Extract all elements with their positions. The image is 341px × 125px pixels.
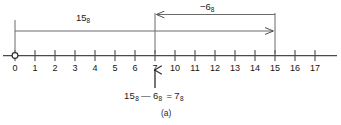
subtraction-span-base: 8 (211, 6, 215, 13)
tick-label-14: 14 (246, 64, 264, 73)
origin-circle-marker (12, 53, 18, 59)
tick-label-13: 13 (226, 64, 244, 73)
tick-label-11: 11 (186, 64, 204, 73)
tick-label-15: 15 (266, 64, 284, 73)
tick-label-6: 6 (126, 64, 144, 73)
equation-minuend-base: 8 (135, 95, 139, 102)
equation-subtrahend-base: 8 (159, 95, 163, 102)
tick-label-12: 12 (206, 64, 224, 73)
total-span-value: 15 (76, 12, 87, 23)
equation-result-base: 8 (180, 95, 184, 102)
octal-number-line-figure: 0 1 2 3 4 5 6 7 10 11 12 13 14 15 16 17 … (0, 0, 341, 125)
tick-label-2: 2 (46, 64, 64, 73)
equation-equals: = (162, 90, 174, 101)
equation-subtrahend: 6 (153, 90, 159, 101)
tick-label-10: 10 (166, 64, 184, 73)
tick-label-7: 7 (146, 64, 164, 73)
tick-label-5: 5 (106, 64, 124, 73)
tick-label-17: 17 (306, 64, 324, 73)
equation-minuend: 15 (124, 90, 135, 101)
tick-label-4: 4 (86, 64, 104, 73)
tick-label-1: 1 (26, 64, 44, 73)
total-span-label: 158 (76, 13, 90, 23)
equation: 158—68=78 (124, 91, 184, 101)
tick-label-16: 16 (286, 64, 304, 73)
tick-label-0: 0 (6, 64, 24, 73)
equation-operator: — (139, 90, 153, 101)
total-span-base: 8 (87, 17, 91, 24)
subtraction-span-value: −6 (200, 1, 211, 12)
tick-label-3: 3 (66, 64, 84, 73)
subtraction-span-label: −68 (200, 2, 214, 12)
figure-caption: (a) (161, 109, 171, 118)
